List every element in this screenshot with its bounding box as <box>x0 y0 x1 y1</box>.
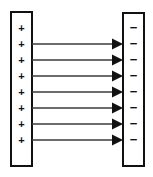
positive-plate-charge-symbol: + <box>18 54 24 66</box>
negative-plate-charge-symbol: − <box>130 84 138 99</box>
negative-plate: −−−−−−−− <box>123 13 144 166</box>
field-line-arrowhead <box>112 87 123 98</box>
field-line-arrowhead <box>112 103 123 114</box>
negative-plate-charge-symbol: − <box>130 132 138 147</box>
positive-plate-charge-symbol: + <box>18 22 24 34</box>
positive-plate-charge-symbol: + <box>18 86 24 98</box>
positive-plate-charge-symbol: + <box>18 118 24 130</box>
field-line-arrowhead <box>112 135 123 146</box>
negative-plate-charge-symbol: − <box>130 100 138 115</box>
field-line-arrowhead <box>112 55 123 66</box>
field-line-arrowhead <box>112 39 123 50</box>
diagram-canvas: ++++++++ −−−−−−−− <box>0 0 153 177</box>
electric-field-lines <box>32 39 123 146</box>
positive-plate-charge-symbol: + <box>18 102 24 114</box>
field-line-arrowhead <box>112 71 123 82</box>
positive-plate-charge-symbol: + <box>18 38 24 50</box>
positive-plate: ++++++++ <box>11 12 32 166</box>
negative-plate-charge-symbol: − <box>130 68 138 83</box>
negative-plate-charge-symbol: − <box>130 116 138 131</box>
positive-plate-charge-symbol: + <box>18 134 24 146</box>
capacitor-field-diagram: ++++++++ −−−−−−−− <box>0 0 153 177</box>
negative-plate-charge-symbol: − <box>130 52 138 67</box>
negative-plate-charge-symbol: − <box>130 20 138 35</box>
negative-plate-charge-symbol: − <box>130 36 138 51</box>
field-line-arrowhead <box>112 119 123 130</box>
positive-plate-charge-symbol: + <box>18 70 24 82</box>
